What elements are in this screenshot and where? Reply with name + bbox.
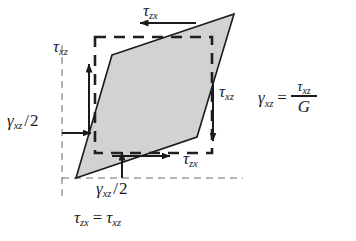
gamma-subscript: xz (14, 120, 23, 131)
tau-subscript: xz (59, 46, 68, 57)
shear-strain-equation: γxz = τxz G (258, 80, 317, 116)
complementary-shear-equation: τzx = τxz (74, 209, 121, 226)
tau-subscript-lhs: zx (80, 217, 89, 228)
slash-symbol: / (111, 179, 119, 198)
equals-sign: = (276, 89, 288, 106)
tau-subscript: xz (225, 91, 234, 102)
equals-sign: = (92, 209, 104, 226)
half-denominator: 2 (119, 179, 128, 198)
gamma-symbol: γ (96, 179, 103, 198)
gamma-symbol: γ (7, 111, 14, 130)
tau-xz-left-label: τxz (53, 38, 68, 55)
tau-xz-right-label: τxz (219, 83, 234, 100)
tau-subscript: zx (149, 10, 158, 21)
slash-symbol: / (22, 111, 30, 130)
half-denominator: 2 (30, 111, 39, 130)
gamma-subscript: xz (265, 98, 274, 109)
fraction-denominator: G (295, 97, 313, 115)
shear-strain-figure: τzx τzx τxz τxz γxz/2 γxz/2 γxz = τxz G … (0, 0, 356, 241)
tau-symbol: τ (297, 78, 302, 94)
tau-subscript: xz (303, 85, 311, 96)
tau-subscript: zx (189, 158, 198, 169)
gamma-subscript: xz (103, 188, 112, 199)
tau-zx-top-label: τzx (143, 2, 158, 19)
fraction: τxz G (291, 79, 317, 115)
fraction-numerator: τxz (294, 79, 313, 95)
gamma-xz-half-left-label: γxz/2 (7, 112, 39, 129)
gamma-symbol: γ (258, 88, 265, 107)
gamma-xz-half-bottom-label: γxz/2 (96, 180, 128, 197)
tau-subscript-rhs: xz (112, 217, 121, 228)
tau-zx-bottom-label: τzx (183, 150, 198, 167)
